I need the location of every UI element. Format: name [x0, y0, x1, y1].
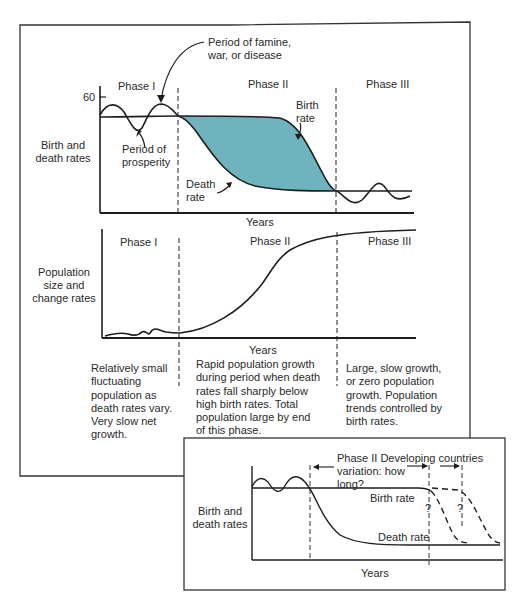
phase1-description: Relatively small fluctuating population … — [91, 362, 172, 442]
phase3-label-top: Phase III — [366, 78, 409, 91]
phase3-label-middle: Phase III — [368, 235, 411, 248]
middle-y-label-line3: change rates — [28, 292, 100, 305]
inset-x-label: Years — [361, 567, 389, 580]
phase2-description: Rapid population growth during period wh… — [196, 358, 320, 438]
top-x-label: Years — [246, 216, 274, 229]
middle-x-label: Years — [249, 344, 277, 357]
inset-y-label-line1: Birth and — [188, 505, 252, 518]
prosperity-annotation-line2: prosperity — [122, 156, 170, 169]
death-rate-annotation-line2: rate — [186, 191, 205, 204]
birth-rate-annotation-line1: Birth — [296, 99, 319, 112]
inset-question-mark-1: ? — [425, 502, 431, 515]
inset-question-mark-2: ? — [457, 502, 463, 515]
inset-title-line1: Phase II Developing countries — [337, 452, 483, 465]
middle-y-label-line2: size and — [28, 279, 100, 292]
famine-annotation-line2: war, or disease — [208, 49, 282, 62]
prosperity-annotation-line1: Period of — [122, 143, 166, 156]
phase1-label-top: Phase I — [118, 80, 155, 93]
inset-y-label-line2: death rates — [188, 518, 252, 531]
middle-y-label-line1: Population — [28, 266, 100, 279]
inset-birth-rate-label: Birth rate — [370, 492, 415, 505]
inset-title-line2: variation: how — [337, 465, 405, 478]
inset-death-rate-label: Death rate — [378, 531, 429, 544]
birth-rate-annotation-line2: rate — [296, 112, 315, 125]
y-tick-60: 60 — [83, 91, 95, 104]
inset-title-line3: long? — [337, 478, 364, 491]
famine-annotation-line1: Period of famine, — [208, 36, 291, 49]
top-y-label-line1: Birth and — [28, 139, 98, 152]
top-y-label-line2: death rates — [28, 152, 98, 165]
phase3-description: Large, slow growth, or zero population g… — [346, 362, 442, 428]
phase2-label-middle: Phase II — [250, 235, 290, 248]
top-chart — [100, 42, 414, 216]
death-rate-annotation-line1: Death — [186, 178, 215, 191]
phase2-label-top: Phase II — [248, 78, 288, 91]
phase1-label-middle: Phase I — [120, 236, 157, 249]
